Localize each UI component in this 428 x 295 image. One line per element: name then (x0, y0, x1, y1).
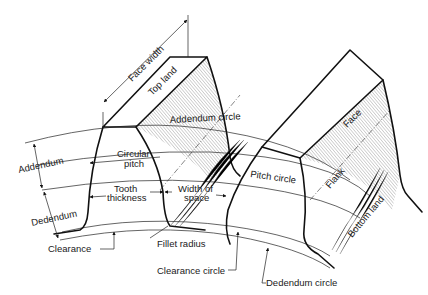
label-addendum: Addendum (17, 155, 64, 175)
label-clearance-circle: Clearance circle (157, 265, 225, 276)
gear-tooth-diagram: Face width Top land Addendum circle Face… (0, 0, 428, 295)
right-tooth (226, 50, 422, 268)
label-width-of-space-2: space (184, 192, 209, 203)
label-bottom-land: Bottom land (345, 193, 386, 239)
label-addendum-circle: Addendum circle (170, 110, 241, 125)
diagram-canvas: Face width Top land Addendum circle Face… (0, 0, 428, 295)
right-tooth-profile-right (300, 158, 334, 268)
label-dedendum-circle: Dedendum circle (266, 277, 337, 288)
label-clearance: Clearance (48, 243, 91, 254)
label-fillet-radius: Fillet radius (157, 238, 206, 249)
label-circular-pitch-2: pitch (124, 158, 144, 169)
left-tooth (54, 57, 240, 234)
label-tooth-thickness-2: thickness (107, 192, 147, 203)
label-pitch-circle: Pitch circle (250, 168, 297, 185)
